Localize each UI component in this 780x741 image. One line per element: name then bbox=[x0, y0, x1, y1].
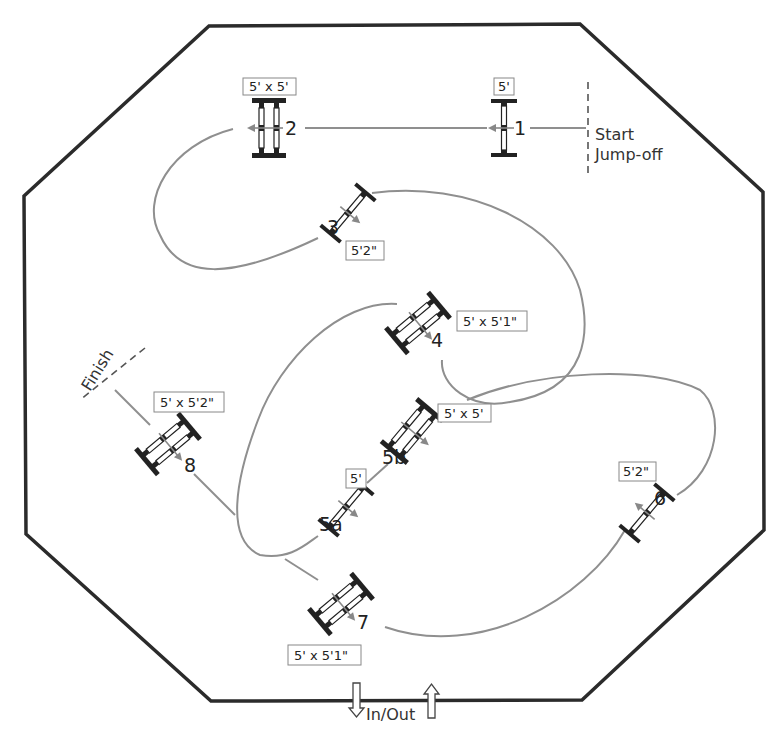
fence-5a: 5' 5a bbox=[317, 469, 376, 539]
fence-3: 5'2" 3 bbox=[319, 182, 384, 260]
fence-5b-number: 5b bbox=[382, 446, 406, 468]
fence-6: 5'2" 6 bbox=[616, 462, 675, 544]
fence-4-height: 5' x 5'1" bbox=[463, 314, 517, 329]
fence-5b: 5' x 5' 5b bbox=[380, 397, 491, 468]
fence-6-number: 6 bbox=[654, 487, 666, 509]
fence-2-height: 5' x 5' bbox=[249, 79, 289, 94]
fence-2: 5' x 5' 2 bbox=[243, 78, 297, 158]
fence-3-height: 5'2" bbox=[351, 243, 377, 258]
fence-4-number: 4 bbox=[431, 329, 443, 351]
fence-5b-height: 5' x 5' bbox=[444, 406, 484, 421]
fence-1-number: 1 bbox=[514, 117, 526, 139]
fence-8-number: 8 bbox=[184, 454, 196, 476]
fence-4: 5' x 5'1" 4 bbox=[384, 291, 527, 359]
arena-boundary bbox=[24, 24, 764, 701]
in-out-label: In/Out bbox=[366, 705, 415, 724]
fence-1: 5' 1 bbox=[488, 78, 526, 157]
fence-6-height: 5'2" bbox=[623, 464, 649, 479]
fence-2-number: 2 bbox=[285, 117, 297, 139]
in-out-gate: In/Out bbox=[349, 683, 439, 724]
fence-7-number: 7 bbox=[357, 611, 369, 633]
fence-3-number: 3 bbox=[327, 216, 339, 238]
fence-7-height: 5' x 5'1" bbox=[294, 648, 348, 663]
fence-8: 5' x 5'2" 8 bbox=[134, 392, 224, 480]
fence-7: 5' x 5'1" 7 bbox=[288, 572, 378, 665]
fence-5a-height: 5' bbox=[350, 471, 362, 486]
fence-8-height: 5' x 5'2" bbox=[160, 395, 214, 410]
course-diagram: Start Jump-off Finish 5' 1 5' x 5' 2 5'2… bbox=[0, 0, 780, 741]
fence-1-height: 5' bbox=[498, 79, 510, 94]
course-path bbox=[115, 128, 715, 636]
fence-5a-number: 5a bbox=[319, 513, 343, 535]
jumpoff-label: Jump-off bbox=[594, 145, 663, 164]
start-label: Start bbox=[595, 125, 634, 144]
finish-label: Finish bbox=[77, 345, 117, 394]
